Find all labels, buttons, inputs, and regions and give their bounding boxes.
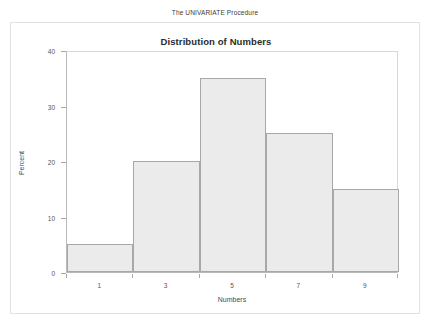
- histogram-bar: [333, 189, 399, 272]
- x-tick-mark: [66, 274, 67, 278]
- sas-output-page: The UNIVARIATE Procedure Distribution of…: [0, 0, 430, 325]
- histogram-bar: [200, 78, 266, 272]
- report-container: Distribution of Numbers Percent 01020304…: [10, 22, 420, 314]
- x-tick-label: 1: [97, 282, 101, 289]
- y-tick-label: 40: [48, 48, 55, 55]
- plot-area: [66, 51, 398, 273]
- histogram-bar: [266, 133, 332, 272]
- y-axis: Percent 010203040: [11, 51, 66, 274]
- x-tick-mark: [265, 274, 266, 278]
- x-axis-title: Numbers: [66, 296, 398, 303]
- x-tick-label: 5: [230, 282, 234, 289]
- x-tick-label: 9: [363, 282, 367, 289]
- chart-title: Distribution of Numbers: [11, 36, 421, 47]
- x-axis: Numbers 13579: [66, 274, 398, 314]
- x-tick-mark: [132, 274, 133, 278]
- procedure-title: The UNIVARIATE Procedure: [0, 9, 430, 16]
- histogram-bar: [67, 244, 133, 272]
- histogram-bar: [133, 161, 199, 272]
- x-tick-mark: [199, 274, 200, 278]
- y-tick-label: 10: [48, 214, 55, 221]
- x-tick-label: 7: [297, 282, 301, 289]
- y-axis-title: Percent: [18, 150, 25, 174]
- x-tick-mark: [397, 274, 398, 278]
- y-tick-label: 30: [48, 103, 55, 110]
- bars-container: [67, 52, 397, 272]
- x-tick-label: 3: [164, 282, 168, 289]
- y-tick-label: 20: [48, 159, 55, 166]
- y-tick-label: 0: [51, 270, 55, 277]
- x-tick-mark: [332, 274, 333, 278]
